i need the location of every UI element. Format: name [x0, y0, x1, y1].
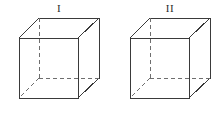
cube-ii-oblique-top-right-edge [189, 18, 210, 38]
cube-ii-group: II [130, 2, 210, 98]
cube-ii-label: II [166, 2, 174, 14]
cube-i-hidden-oblique-bottom-left-edge [19, 78, 39, 98]
cube-i-label: I [57, 2, 61, 14]
geometry-figure: I II [0, 0, 220, 115]
cube-ii-oblique-bottom-right-edge [189, 78, 210, 98]
cube-i-group: I [19, 2, 99, 98]
cube-i-oblique-bottom-right-edge [78, 78, 99, 98]
cube-ii-oblique-top-left-edge [130, 18, 150, 38]
cube-i-oblique-top-left-edge [19, 18, 39, 38]
cube-ii-hidden-oblique-bottom-left-edge [130, 78, 150, 98]
cubes-diagram-svg: I II [0, 0, 220, 115]
cube-i-oblique-top-right-edge [78, 18, 99, 38]
